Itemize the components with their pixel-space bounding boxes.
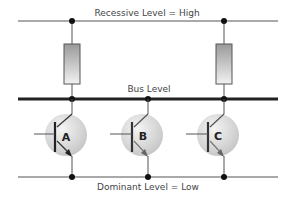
transistor-c: [186, 99, 239, 180]
dominant-level-label: Dominant Level = Low: [97, 182, 199, 192]
transistor-b-label: B: [139, 130, 147, 143]
diagram-svg: [0, 0, 295, 197]
bus-level-label: Bus Level: [127, 84, 170, 94]
resistor-r1: [64, 18, 80, 102]
can-bus-diagram: Recessive Level = High Bus Level Dominan…: [0, 0, 295, 197]
transistor-a: [34, 99, 87, 180]
transistor-a-label: A: [62, 131, 71, 144]
transistor-b: [110, 99, 163, 180]
resistor-r2: [216, 18, 232, 102]
transistor-c-label: C: [214, 130, 222, 143]
recessive-level-label: Recessive Level = High: [94, 8, 199, 18]
